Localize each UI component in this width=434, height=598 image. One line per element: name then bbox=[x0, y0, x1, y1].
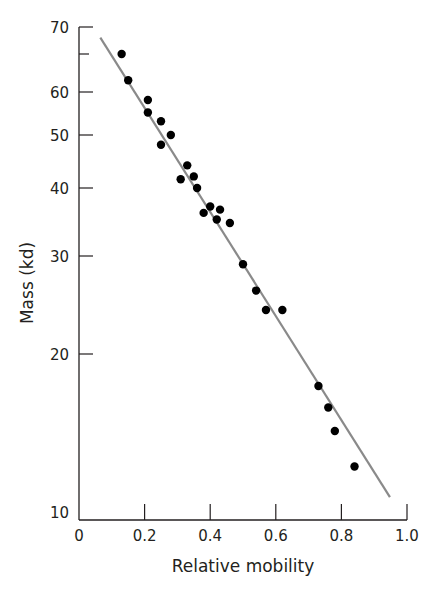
data-point bbox=[206, 202, 214, 210]
data-point bbox=[193, 184, 201, 192]
data-point bbox=[314, 382, 322, 390]
data-point bbox=[144, 108, 152, 116]
data-points bbox=[117, 50, 358, 471]
data-point bbox=[157, 140, 165, 148]
x-tick-label: 1.0 bbox=[395, 527, 419, 545]
data-point bbox=[324, 403, 332, 411]
data-point bbox=[262, 306, 270, 314]
data-point bbox=[216, 205, 224, 213]
data-point bbox=[239, 260, 247, 268]
y-tick-label: 60 bbox=[50, 84, 69, 102]
x-tick-label: 0.8 bbox=[329, 527, 353, 545]
data-point bbox=[213, 215, 221, 223]
data-point bbox=[199, 209, 207, 217]
data-point bbox=[167, 131, 175, 139]
chart: 1020304050607000.20.40.60.81.0 Relative … bbox=[0, 0, 434, 598]
data-point bbox=[226, 219, 234, 227]
data-point bbox=[117, 50, 125, 58]
y-tick-label: 50 bbox=[50, 127, 69, 145]
y-tick-label: 30 bbox=[50, 248, 69, 266]
data-point bbox=[350, 462, 358, 470]
x-tick-label: 0.2 bbox=[133, 527, 157, 545]
data-point bbox=[157, 117, 165, 125]
y-tick-label: 20 bbox=[50, 346, 69, 364]
data-point bbox=[144, 96, 152, 104]
x-tick-label: 0 bbox=[74, 527, 84, 545]
data-point bbox=[190, 172, 198, 180]
x-tick-label: 0.4 bbox=[198, 527, 222, 545]
y-axis-title: Mass (kd) bbox=[17, 242, 37, 324]
data-point bbox=[252, 286, 260, 294]
x-axis-title: Relative mobility bbox=[172, 556, 315, 576]
y-tick-label: 70 bbox=[50, 19, 69, 37]
data-point bbox=[331, 427, 339, 435]
data-point bbox=[183, 161, 191, 169]
tick-labels: 1020304050607000.20.40.60.81.0 bbox=[50, 19, 419, 546]
x-tick-label: 0.6 bbox=[264, 527, 288, 545]
data-point bbox=[176, 175, 184, 183]
data-point bbox=[124, 76, 132, 84]
y-tick-label: 40 bbox=[50, 180, 69, 198]
y-tick-label: 10 bbox=[50, 504, 69, 522]
data-point bbox=[278, 306, 286, 314]
